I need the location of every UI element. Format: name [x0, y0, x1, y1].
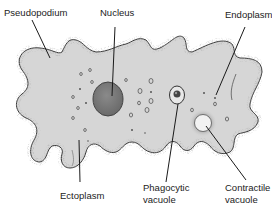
- food-particle: [174, 91, 181, 98]
- label-pseudopodium: Pseudopodium: [4, 7, 67, 19]
- amoeba-illustration: [0, 0, 272, 206]
- label-contractile-vacuole-line1: Contractile: [225, 182, 270, 194]
- nucleus: [93, 82, 123, 116]
- label-phagocytic-vacuole-line1: Phagocytic: [143, 182, 189, 194]
- label-phagocytic-vacuole-line2: vacuole: [143, 194, 176, 206]
- amoeba-diagram: Pseudopodium Nucleus Endoplasm Ectoplasm…: [0, 0, 272, 206]
- label-nucleus: Nucleus: [100, 7, 134, 19]
- contractile-vacuole: [195, 115, 212, 132]
- label-endoplasm: Endoplasm: [225, 9, 272, 21]
- label-contractile-vacuole-line2: vacuole: [225, 194, 258, 206]
- label-ectoplasm: Ectoplasm: [60, 190, 104, 202]
